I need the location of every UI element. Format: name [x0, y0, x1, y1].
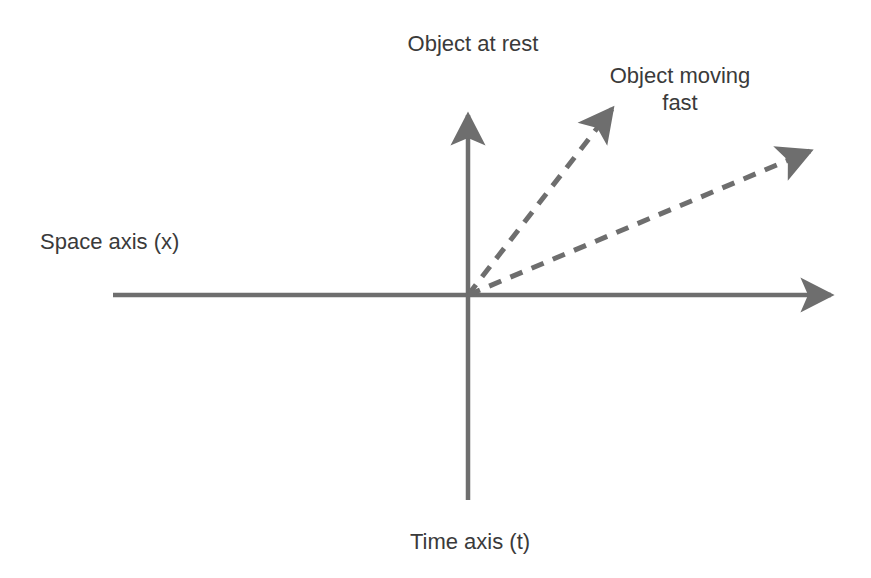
worldline-object-moving-shallow — [468, 151, 810, 295]
label-object-moving-fast-line1: Object moving — [610, 63, 751, 88]
label-object-moving-fast-line2: fast — [662, 90, 697, 115]
label-object-moving-fast: Object movingfast — [610, 62, 751, 116]
label-object-at-rest: Object at rest — [408, 30, 539, 57]
spacetime-diagram: Object at rest Object movingfast Space a… — [0, 0, 871, 578]
label-time-axis: Time axis (t) — [410, 528, 530, 555]
label-space-axis: Space axis (x) — [40, 228, 179, 255]
